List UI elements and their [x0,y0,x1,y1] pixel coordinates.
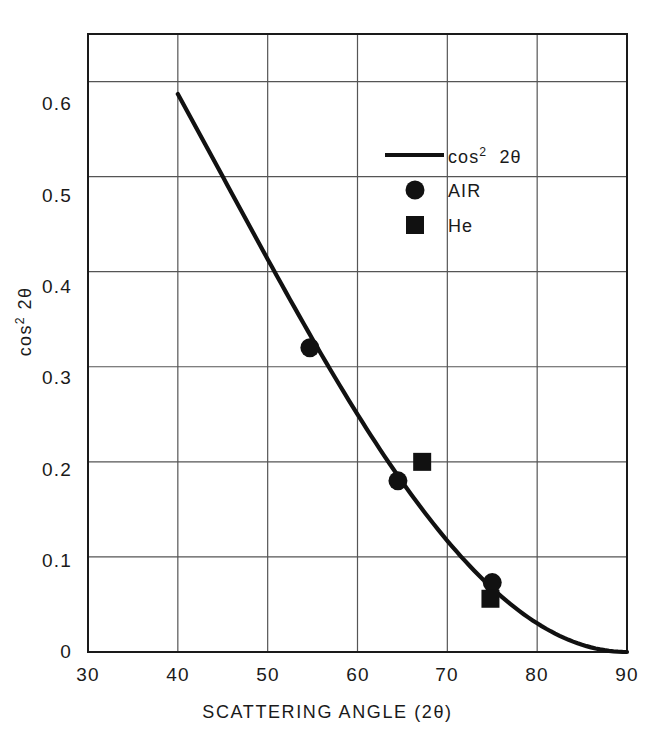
legend-label-exponent-0: 2 [479,145,487,159]
legend-label-tail-0: 2θ [499,147,521,167]
chart-figure: 0 0.1 0.2 0.3 0.4 0.5 0.6 30 40 50 60 70… [0,0,655,739]
legend-entry-air: AIR [448,181,481,202]
legend-entry-cos-squared-2theta: cos2 2θ [448,145,522,168]
legend-entry-helium: He [448,216,473,237]
legend-symbols [0,0,655,739]
legend-swatch-square [406,216,424,234]
legend-swatch-circle [406,181,425,200]
legend-label-base-0: cos [448,147,479,167]
